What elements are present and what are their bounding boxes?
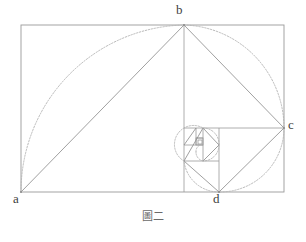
vertex-label-b: b	[176, 3, 183, 16]
vertex-label-d: d	[213, 192, 220, 205]
figure-caption: 圖二	[0, 207, 306, 223]
diagonal-a-b	[21, 25, 184, 192]
vertex-markers	[20, 24, 285, 193]
diagonal-c-d	[219, 128, 284, 192]
vertex-dot-c	[283, 127, 285, 129]
vertex-dot-a	[20, 191, 22, 193]
figure-container: a b c d 圖二	[0, 0, 306, 242]
vertex-dot-b	[183, 24, 185, 26]
diagonal-b-c	[184, 25, 284, 128]
diagonal-f-g	[203, 128, 219, 145]
square-diagonals	[21, 25, 284, 192]
golden-spiral-diagram	[0, 0, 306, 242]
diagonal-e-f	[184, 128, 203, 161]
innermost-square-2	[198, 140, 202, 144]
spiral-arc-5	[174, 125, 203, 161]
spiral-arc-8	[196, 152, 203, 161]
spiral-arc-9	[196, 145, 200, 152]
vertex-label-a: a	[13, 192, 19, 205]
subdivision-lines	[184, 25, 284, 192]
vertex-label-c: c	[288, 118, 294, 131]
